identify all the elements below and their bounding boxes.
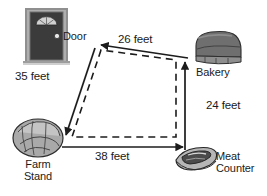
label-farm-stand-line2: Stand bbox=[12, 170, 64, 182]
cabbage-icon bbox=[13, 119, 63, 157]
label-meat-counter-line1: Meat bbox=[216, 150, 264, 162]
label-bakery: Bakery bbox=[196, 66, 230, 78]
bread-loaf-icon bbox=[196, 32, 241, 65]
steak-icon bbox=[176, 148, 217, 170]
segment-door-farm bbox=[66, 48, 95, 135]
distance-label-bakery-door: 26 feet bbox=[118, 33, 152, 45]
distance-label-farm-meat: 38 feet bbox=[95, 150, 129, 162]
label-meat-counter-line2: Counter bbox=[216, 162, 264, 174]
distance-label-meat-bakery: 24 feet bbox=[206, 99, 240, 111]
diagram-canvas: Door 26 feet Bakery 35 feet 24 feet 38 f… bbox=[0, 0, 267, 196]
label-meat-counter: Meat Counter bbox=[216, 150, 264, 174]
label-farm-stand: Farm Stand bbox=[12, 158, 64, 182]
label-door: Door bbox=[63, 30, 86, 42]
dashed-boundary-path bbox=[72, 50, 176, 137]
distance-label-door-farm: 35 feet bbox=[15, 70, 49, 82]
label-farm-stand-line1: Farm bbox=[12, 158, 64, 170]
